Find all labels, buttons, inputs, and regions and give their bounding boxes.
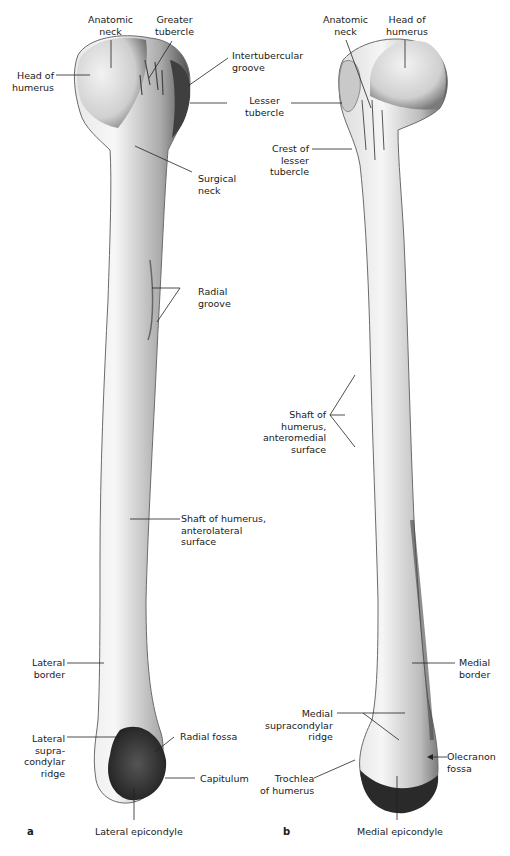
label-greater-tubercle: Greater tubercle [155, 14, 194, 37]
label-medial-border: Medial border [459, 657, 490, 680]
label-lateral-border: Lateral border [32, 657, 65, 680]
label-intertubercular-groove: Intertubercular groove [232, 50, 303, 73]
label-lateral-supracondylar-ridge: Lateral supra- condylar ridge [24, 733, 65, 779]
label-capitulum: Capitulum [200, 773, 249, 785]
label-lateral-epicondyle: Lateral epicondyle [95, 826, 183, 838]
label-lesser-tubercle: Lesser tubercle [245, 95, 284, 118]
label-medial-epicondyle: Medial epicondyle [357, 826, 443, 838]
label-head-of-humerus-b: Head of humerus [386, 14, 428, 37]
label-radial-fossa: Radial fossa [180, 731, 237, 743]
panel-letter-b: b [283, 826, 290, 837]
humerus-posterior-view [339, 39, 448, 813]
label-radial-groove: Radial groove [198, 286, 231, 309]
label-surgical-neck: Surgical neck [198, 173, 236, 196]
humerus-illustration [0, 0, 510, 856]
label-crest-of-lesser-tubercle: Crest of lesser tubercle [270, 143, 309, 178]
label-head-of-humerus-a: Head of humerus [12, 70, 54, 93]
humerus-anterior-view [74, 36, 190, 803]
label-anatomic-neck-b: Anatomic neck [323, 14, 368, 37]
label-medial-supracondylar-ridge: Medial supracondylar ridge [265, 708, 333, 743]
label-shaft-anteromedial: Shaft of humerus, anteromedial surface [263, 409, 326, 455]
panel-letter-a: a [27, 826, 34, 837]
label-trochlea: Trochlea of humerus [260, 773, 314, 796]
label-olecranon-fossa: Olecranon fossa [447, 751, 496, 774]
label-shaft-anterolateral: Shaft of humerus, anterolateral surface [181, 513, 266, 548]
label-anatomic-neck-a: Anatomic neck [88, 14, 133, 37]
